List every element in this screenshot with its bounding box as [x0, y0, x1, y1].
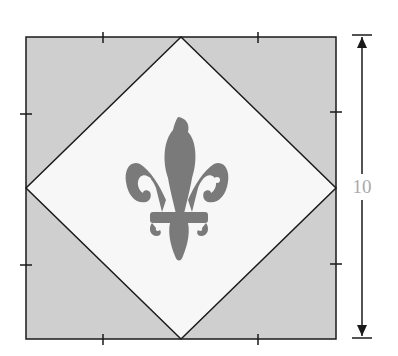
arrow-up-icon — [357, 37, 367, 48]
quilt-block-diagram — [0, 0, 398, 356]
dimension-label: 10 — [345, 174, 379, 200]
arrow-down-icon — [357, 325, 367, 336]
